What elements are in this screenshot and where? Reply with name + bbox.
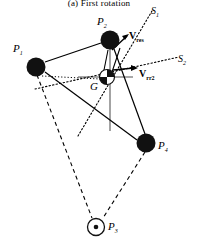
point-P2-marker xyxy=(101,31,120,50)
vector-Vrr2 xyxy=(113,65,138,71)
label-P4-sub: 4 xyxy=(165,147,168,153)
edge-P2-P4 xyxy=(114,49,145,134)
label-P3-base: P xyxy=(108,220,115,232)
vector-Vrr2-shaft xyxy=(113,68,134,70)
label-Vrr2: Vrr2 xyxy=(139,69,155,81)
label-P1: P1 xyxy=(13,43,23,56)
label-G: G xyxy=(90,81,98,92)
center-of-mass-icon xyxy=(100,70,115,85)
edge-P1-P3 xyxy=(37,75,92,218)
label-P2: P2 xyxy=(97,16,107,29)
label-P2-sub: 2 xyxy=(104,23,107,29)
label-S2-sub: 2 xyxy=(183,60,186,66)
label-S1: S1 xyxy=(151,6,159,18)
label-P1-sub: 1 xyxy=(20,50,23,56)
dashed-edge-group xyxy=(37,75,145,218)
label-Vrr2-sub: rr2 xyxy=(146,75,154,81)
edge-G-Vres-tail xyxy=(112,48,120,72)
edge-P2-G xyxy=(104,50,108,70)
label-Vres-sub: res xyxy=(136,37,144,43)
label-P2-base: P xyxy=(97,15,104,27)
figure-canvas: (a) First rotation xyxy=(0,0,198,243)
label-P3-sub: 3 xyxy=(115,228,118,234)
edge-P1-P2 xyxy=(45,43,101,62)
label-Vres: Vres xyxy=(129,31,144,43)
label-S2: S2 xyxy=(178,54,186,66)
edge-P4-P3 xyxy=(103,152,145,218)
diagram-svg xyxy=(0,0,198,243)
label-P1-base: P xyxy=(13,42,20,54)
label-P4: P4 xyxy=(158,140,168,153)
label-P4-base: P xyxy=(158,139,165,151)
point-P1-marker xyxy=(27,58,46,77)
label-P3: P3 xyxy=(108,221,118,234)
point-P4-marker xyxy=(137,134,156,153)
label-S1-sub: 1 xyxy=(156,12,159,18)
point-P3-center-dot-icon xyxy=(94,225,99,230)
